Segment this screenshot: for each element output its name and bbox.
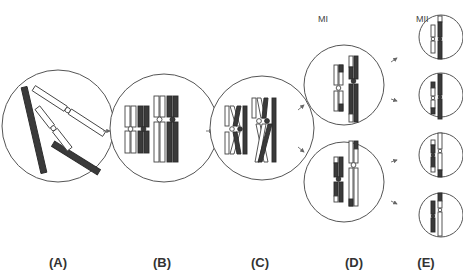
panel-d-cell-bottom <box>304 141 384 222</box>
panel-c-cell <box>210 76 314 180</box>
panel-a-cell <box>2 70 114 182</box>
arrow-d-to-e-3 <box>391 160 397 162</box>
arrow-d-to-e-2 <box>391 99 397 101</box>
panel-b-cell <box>110 74 218 182</box>
panel-label-c: (C) <box>251 255 269 270</box>
panel-label-d: (D) <box>345 255 363 270</box>
stage-label-mi: MI <box>318 14 328 24</box>
panel-e-cell-2 <box>419 73 463 119</box>
meiosis-diagram <box>0 0 463 278</box>
stage-label-mii: MII <box>416 14 429 24</box>
panel-d-cell-top <box>304 45 384 125</box>
arrow-d-to-e-1 <box>391 58 397 62</box>
panel-label-e: (E) <box>417 255 434 270</box>
panel-label-a: (A) <box>49 255 67 270</box>
panel-e-cell-3 <box>419 133 463 177</box>
arrow-d-to-e-4 <box>391 201 397 204</box>
panel-e-cell-4 <box>419 193 463 237</box>
panel-label-b: (B) <box>153 255 171 270</box>
